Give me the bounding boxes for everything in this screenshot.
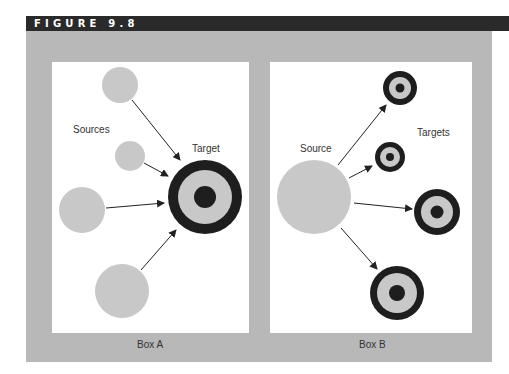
box-a-caption: Box A <box>137 339 163 350</box>
target-bullseye <box>414 189 460 235</box>
source-label: Source <box>300 143 332 154</box>
diagram-canvas: Sources Target Source Targ <box>0 0 509 374</box>
box-a-diagram: Sources Target <box>59 67 242 318</box>
source-circle <box>102 67 138 103</box>
target-bullseye <box>383 71 417 105</box>
source-circle <box>59 187 105 233</box>
target-bullseye <box>168 160 242 234</box>
target-label: Target <box>192 143 220 154</box>
target-bullseye <box>375 142 405 172</box>
arrow <box>141 230 176 270</box>
arrow <box>354 203 412 209</box>
arrow <box>144 163 168 176</box>
arrow <box>349 166 372 178</box>
source-circle <box>115 141 145 171</box>
arrow <box>341 228 377 269</box>
sources-label: Sources <box>73 124 110 135</box>
box-b-diagram: Source Targets <box>277 71 460 320</box>
arrow <box>106 203 164 208</box>
target-bullseye <box>370 266 424 320</box>
source-circle <box>277 160 351 234</box>
targets-label: Targets <box>417 127 450 138</box>
source-circle <box>95 264 149 318</box>
box-b-caption: Box B <box>359 339 386 350</box>
